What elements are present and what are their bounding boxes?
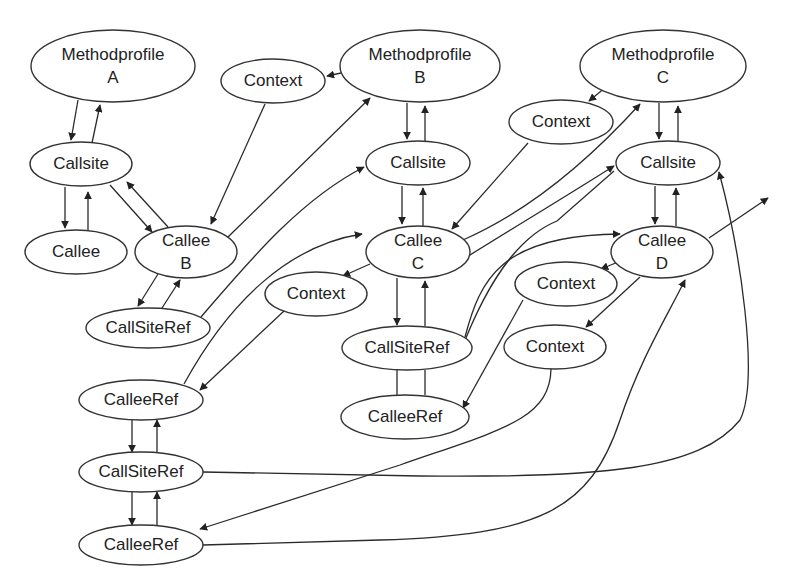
node-label: Methodprofile [61,45,164,64]
node-calleeC: CalleeC [366,226,470,278]
node-sublabel: A [107,68,119,87]
node-label: Callee [638,231,686,250]
node-calleeD: CalleeD [611,226,713,278]
node-shape [31,30,195,102]
edge-calleeB-to-csr1 [138,274,158,306]
node-sublabel: B [414,68,425,87]
node-ctxMid: Context [265,272,367,316]
node-mpA: MethodprofileA [31,30,195,102]
node-label: Callsite [640,153,696,172]
node-ctxD1: Context [515,262,617,306]
node-label: CalleeRef [368,407,443,426]
edge-calleeB-to-csA [127,182,168,227]
node-label: Callee [162,231,210,250]
node-label: CalleeRef [104,535,179,554]
node-label: Methodprofile [611,45,714,64]
node-label: Callee [52,242,100,261]
node-csr1: CallSiteRef [86,308,210,348]
node-label: Callsite [390,153,446,172]
node-label: CallSiteRef [98,462,183,481]
node-csC: Callsite [616,141,720,185]
node-label: Methodprofile [368,45,471,64]
node-label: Context [244,71,303,90]
node-label: Callsite [53,154,109,173]
node-cer1: CalleeRef [79,380,203,420]
node-sublabel: D [656,254,668,273]
edge-ctxMid-to-cer1 [200,311,284,390]
node-sublabel: C [657,68,669,87]
node-shape [580,30,746,102]
edge-csr1-to-calleeB [162,280,180,308]
node-ctxTop: Context [221,59,325,103]
node-sublabel: B [180,254,191,273]
node-label: CalleeRef [104,390,179,409]
call-graph-diagram: MethodprofileAContextMethodprofileBMetho… [0,0,785,587]
node-label: CallSiteRef [364,338,449,357]
node-sublabel: C [412,254,424,273]
edge-csr2-to-csC [203,172,748,476]
node-cer2: CalleeRef [79,525,203,565]
node-label: Context [526,337,585,356]
edge-calleeC-to-ctxMid [343,264,370,276]
node-calleeA: Callee [25,230,127,274]
node-label: CallSiteRef [105,318,190,337]
node-label: Callee [394,231,442,250]
node-label: Context [532,112,591,131]
node-calleeB: CalleeB [135,226,237,278]
edge-mpA-to-csA [71,100,78,140]
node-csrC: CallSiteRef [342,326,472,370]
node-csB: Callsite [366,141,470,185]
node-mpB: MethodprofileB [340,30,500,102]
node-csr2: CallSiteRef [79,452,203,492]
edge-calleeD-to-out [709,198,768,238]
node-cerC: CalleeRef [341,395,469,439]
nodes-layer: MethodprofileAContextMethodprofileBMetho… [25,30,746,565]
edge-ctxTop-to-calleeB [211,104,265,224]
node-mpC: MethodprofileC [580,30,746,102]
node-csA: Callsite [30,142,132,186]
edge-ctxD2-to-cer2 [200,369,551,529]
edge-calleeB-to-mpB [228,98,370,237]
edge-mpB-to-ctxTop [327,73,341,76]
node-label: Context [287,284,346,303]
node-label: Context [537,274,596,293]
edge-csA-to-calleeB [110,185,152,232]
node-shape [340,30,500,102]
edge-csA-to-mpA [92,105,100,143]
node-ctxC: Context [509,100,613,144]
node-ctxD2: Context [504,325,606,369]
